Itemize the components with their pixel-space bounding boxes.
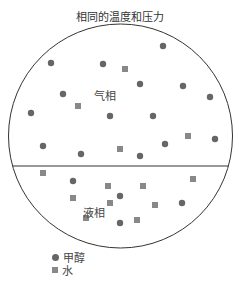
water-molecule — [70, 195, 76, 201]
water-molecule — [122, 66, 128, 72]
methanol-molecule — [162, 141, 168, 147]
methanol-molecule — [150, 113, 156, 119]
water-molecule — [105, 183, 111, 189]
methanol-molecule — [40, 143, 46, 149]
methanol-circle-icon — [52, 254, 59, 261]
methanol-molecule — [179, 200, 185, 206]
methanol-molecule — [70, 178, 76, 184]
phase-equilibrium-diagram — [0, 0, 239, 281]
methanol-molecule — [207, 94, 213, 100]
methanol-molecule — [160, 43, 166, 49]
methanol-molecule — [117, 193, 123, 199]
methanol-molecule — [137, 81, 143, 87]
container-circle — [9, 24, 233, 248]
methanol-molecule — [60, 91, 66, 97]
water-molecule — [40, 170, 46, 176]
water-molecule — [190, 176, 196, 182]
methanol-molecule — [78, 151, 84, 157]
methanol-molecule — [107, 113, 113, 119]
water-square-icon — [52, 267, 58, 273]
water-molecule — [134, 217, 140, 223]
liquid-phase-label: 液相 — [83, 204, 105, 220]
legend-water: 水 — [52, 262, 73, 278]
methanol-molecule — [117, 220, 123, 226]
water-molecule — [117, 146, 123, 152]
particles-group — [28, 43, 218, 226]
water-molecule — [152, 202, 158, 208]
methanol-molecule — [180, 83, 186, 89]
water-molecule — [185, 133, 191, 139]
methanol-molecule — [48, 60, 54, 66]
methanol-molecule — [100, 61, 106, 67]
methanol-molecule — [212, 136, 218, 142]
water-molecule — [140, 183, 146, 189]
legend-water-label: 水 — [62, 262, 73, 278]
methanol-molecule — [28, 110, 34, 116]
water-molecule — [75, 103, 81, 109]
methanol-molecule — [137, 153, 143, 159]
vapor-phase-label: 气相 — [94, 87, 116, 103]
diagram-title: 相同的温度和压力 — [0, 8, 239, 24]
water-molecule — [107, 200, 113, 206]
